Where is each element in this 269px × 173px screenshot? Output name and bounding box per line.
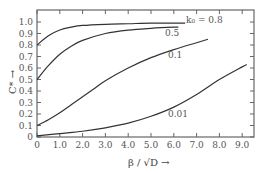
x-axis-label: β / √D →: [128, 157, 170, 168]
x-tick-label: 3.0: [98, 140, 113, 150]
y-tick-label: 1.0: [19, 17, 34, 27]
y-tick-label: 0.9: [19, 29, 34, 39]
x-tick-label: 8.0: [212, 140, 227, 150]
y-tick-label: 0.2: [19, 109, 33, 119]
x-tick-label: 5.0: [144, 140, 159, 150]
curve-k0-0-8: [37, 23, 185, 45]
y-tick-label: 0.3: [19, 98, 34, 108]
y-tick-label: 0: [27, 132, 33, 142]
x-tick-label: 1.0: [53, 140, 68, 150]
x-tick-label: 0: [34, 140, 40, 150]
curve-label: 0.1: [168, 50, 182, 60]
x-tick-label: 2.0: [75, 140, 90, 150]
y-tick-label: 0.6: [19, 63, 34, 73]
y-tick-label: 0.7: [19, 52, 34, 62]
curve-label: 0.5: [165, 28, 180, 38]
y-tick-label: 0.8: [19, 40, 34, 50]
x-tick-label: 9.0: [235, 140, 250, 150]
y-tick-label: 0.5: [19, 75, 34, 85]
curve-0-5: [37, 27, 178, 79]
x-tick-label: 7.0: [189, 140, 204, 150]
curve-label: 0.01: [168, 109, 188, 119]
curve-label: k₀ = 0.8: [186, 15, 223, 25]
curve-labels: k₀ = 0.80.50.10.01: [165, 15, 223, 119]
y-axis-label: C* →: [7, 69, 18, 94]
y-tick-label: 0.1: [19, 121, 33, 131]
curve-0-01: [37, 65, 247, 136]
x-tick-label: 6.0: [167, 140, 182, 150]
curves: [37, 23, 247, 136]
y-tick-label: 0.4: [19, 86, 34, 96]
chart: 01.02.03.04.05.06.07.08.09.000.10.20.30.…: [0, 0, 269, 173]
x-tick-label: 4.0: [121, 140, 136, 150]
